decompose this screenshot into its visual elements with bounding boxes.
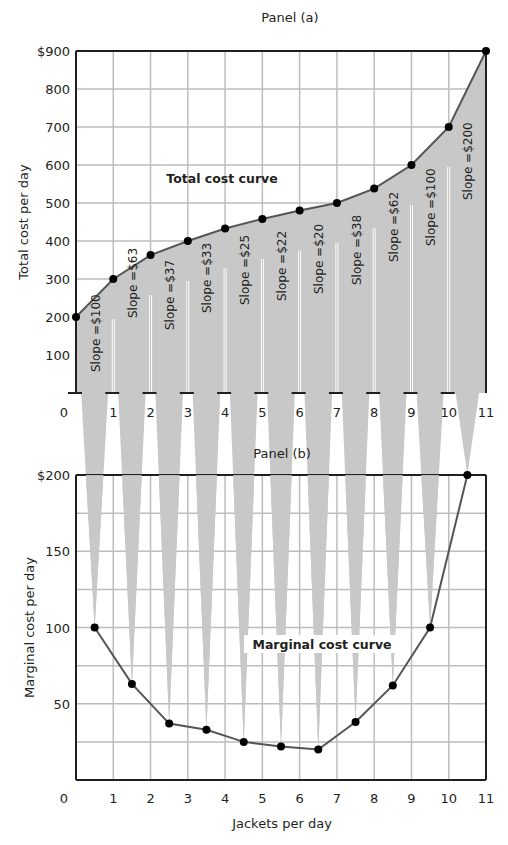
marginal-cost-point xyxy=(389,681,397,689)
total-cost-point xyxy=(184,237,192,245)
marginal-cost-point xyxy=(463,471,471,479)
x-tick-label: 2 xyxy=(146,791,154,806)
slope-annotation: Slope =$62 xyxy=(387,192,401,262)
total-cost-curve-label: Total cost curve xyxy=(166,171,277,186)
total-cost-point xyxy=(147,251,155,259)
marginal-cost-point xyxy=(277,742,285,750)
x-tick-label: 5 xyxy=(258,791,266,806)
marginal-cost-point xyxy=(352,718,360,726)
total-cost-point xyxy=(221,224,229,232)
y-tick-label: 600 xyxy=(45,158,70,173)
x-tick-label: 4 xyxy=(221,791,229,806)
slope-annotation: Slope =$38 xyxy=(350,215,364,285)
x-tick-label: 6 xyxy=(295,791,303,806)
marginal-cost-point xyxy=(202,726,210,734)
slope-wedge-lower xyxy=(383,475,403,685)
slope-annotation: Slope =$100 xyxy=(424,168,438,246)
total-cost-point xyxy=(370,185,378,193)
marginal-cost-point xyxy=(91,624,99,632)
total-cost-point xyxy=(296,207,304,215)
total-cost-point xyxy=(407,161,415,169)
slope-wedge-lower xyxy=(233,475,254,742)
slope-wedge-lower xyxy=(122,475,142,684)
y-tick-label: 200 xyxy=(45,310,70,325)
marginal-cost-point xyxy=(128,680,136,688)
y-tick-label: 150 xyxy=(45,544,70,559)
y-tick-label: 500 xyxy=(45,196,70,211)
y-tick-label: 800 xyxy=(45,82,70,97)
total-cost-point xyxy=(482,47,490,55)
panel-a-y-axis-title: Total cost per day xyxy=(16,164,31,281)
x-tick-label: 0 xyxy=(60,405,68,420)
x-tick-label: 9 xyxy=(407,405,415,420)
marginal-cost-curve-label: Marginal cost curve xyxy=(252,637,391,652)
slope-annotation: Slope =$22 xyxy=(275,231,289,301)
x-tick-label: 3 xyxy=(184,405,192,420)
slope-annotation: Slope =$100 xyxy=(89,294,103,372)
x-tick-label: 3 xyxy=(184,791,192,806)
panel-a-title: Panel (a) xyxy=(261,10,318,25)
x-tick-label: 1 xyxy=(109,405,117,420)
slope-annotation: Slope =$33 xyxy=(200,243,214,313)
marginal-cost-point xyxy=(165,720,173,728)
slope-annotation: Slope =$37 xyxy=(163,260,177,330)
x-tick-label: 8 xyxy=(370,791,378,806)
total-cost-point xyxy=(109,275,117,283)
slope-annotation: Slope =$63 xyxy=(126,248,140,318)
y-tick-label: 700 xyxy=(45,120,70,135)
x-tick-label: 6 xyxy=(295,405,303,420)
x-tick-label: 1 xyxy=(109,791,117,806)
x-tick-label: 9 xyxy=(407,791,415,806)
total-cost-point xyxy=(445,123,453,131)
x-tick-label: 10 xyxy=(440,405,457,420)
y-tick-label: 50 xyxy=(53,697,70,712)
marginal-cost-point xyxy=(314,746,322,754)
x-tick-label: 4 xyxy=(221,405,229,420)
x-tick-label: 8 xyxy=(370,405,378,420)
x-tick-label: 11 xyxy=(478,791,495,806)
x-tick-label: 2 xyxy=(146,405,154,420)
slope-annotation: Slope =$20 xyxy=(312,224,326,294)
x-tick-label: 7 xyxy=(333,405,341,420)
marginal-cost-point xyxy=(426,624,434,632)
total-cost-point xyxy=(72,313,80,321)
slope-wedge-lower xyxy=(159,475,180,724)
x-tick-label: 11 xyxy=(478,405,495,420)
x-axis-title: Jackets per day xyxy=(231,816,332,831)
chart-svg: Panel (a)Panel (b)1002003004005006007008… xyxy=(0,0,508,845)
y-tick-label: 300 xyxy=(45,272,70,287)
panel-b-y-axis-title: Marginal cost per day xyxy=(22,557,37,698)
x-tick-label: 0 xyxy=(60,791,68,806)
slope-wedge-lower xyxy=(270,475,291,746)
total-cost-point xyxy=(333,199,341,207)
y-tick-label: 400 xyxy=(45,234,70,249)
slope-annotation: Slope =$200 xyxy=(461,122,475,200)
x-tick-label: 7 xyxy=(333,791,341,806)
y-tick-label: $200 xyxy=(37,468,70,483)
slope-annotation: Slope =$25 xyxy=(238,235,252,305)
marginal-cost-point xyxy=(240,738,248,746)
slope-wedge-lower xyxy=(345,475,366,722)
y-tick-label: 100 xyxy=(45,621,70,636)
y-tick-label: $900 xyxy=(37,44,70,59)
slope-wedge-lower xyxy=(308,475,329,750)
panel-b-title: Panel (b) xyxy=(253,446,311,461)
slope-wedge-lower xyxy=(196,475,217,730)
y-tick-label: 100 xyxy=(45,348,70,363)
x-tick-label: 10 xyxy=(440,791,457,806)
x-tick-label: 5 xyxy=(258,405,266,420)
total-cost-point xyxy=(258,215,266,223)
